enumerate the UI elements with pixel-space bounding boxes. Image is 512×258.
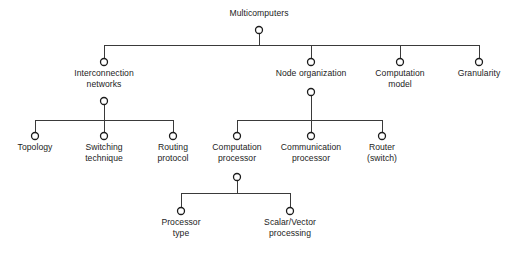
node-label-line: type — [161, 228, 200, 239]
node-label-node-organization: Node organization — [276, 68, 347, 79]
node-label-line: Topology — [18, 142, 53, 153]
node-label-communication-processor: Communicationprocessor — [281, 142, 341, 164]
node-label-multicomputers: Multicomputers — [230, 8, 289, 19]
node-circle-topology[interactable] — [32, 133, 39, 140]
node-label-line: Computation — [375, 68, 424, 79]
node-label-topology: Topology — [18, 142, 53, 153]
node-circle-switching-technique[interactable] — [101, 133, 108, 140]
node-label-granularity: Granularity — [458, 68, 501, 79]
node-label-line: Granularity — [458, 68, 501, 79]
node-label-line: networks — [74, 79, 134, 90]
node-label-line: model — [375, 79, 424, 90]
node-circle-scalar-vector-processing[interactable] — [287, 208, 294, 215]
tree-connector-layer — [0, 0, 512, 258]
node-circle-computation-processor-hub[interactable] — [234, 174, 241, 181]
node-label-scalar-vector-processing: Scalar/Vectorprocessing — [264, 217, 316, 239]
node-label-line: Router — [367, 142, 397, 153]
node-label-line: technique — [85, 153, 123, 164]
node-label-computation-model: Computationmodel — [375, 68, 424, 90]
node-label-router-switch: Router(switch) — [367, 142, 397, 164]
node-circle-processor-type[interactable] — [178, 208, 185, 215]
node-circle-node-organization-hub[interactable] — [308, 89, 315, 96]
node-circle-computation-model[interactable] — [397, 59, 404, 66]
node-label-interconnection-networks: Interconnectionnetworks — [74, 68, 134, 90]
node-label-line: Communication — [281, 142, 341, 153]
node-label-line: (switch) — [367, 153, 397, 164]
node-circle-granularity[interactable] — [476, 59, 483, 66]
node-label-line: Switching — [85, 142, 123, 153]
node-label-line: Processor — [161, 217, 200, 228]
node-circle-node-organization[interactable] — [308, 59, 315, 66]
node-label-line: processing — [264, 228, 316, 239]
node-label-line: processor — [281, 153, 341, 164]
multicomputers-taxonomy-diagram: MulticomputersInterconnectionnetworksNod… — [0, 0, 512, 258]
node-circle-computation-processor[interactable] — [234, 133, 241, 140]
node-circle-interconnection-networks-hub[interactable] — [101, 98, 108, 105]
node-label-processor-type: Processortype — [161, 217, 200, 239]
node-label-routing-protocol: Routingprotocol — [158, 142, 189, 164]
node-label-computation-processor: Computationprocessor — [212, 142, 261, 164]
node-label-line: protocol — [158, 153, 189, 164]
node-circle-communication-processor[interactable] — [308, 133, 315, 140]
node-label-line: processor — [212, 153, 261, 164]
node-label-line: Node organization — [276, 68, 347, 79]
node-label-line: Interconnection — [74, 68, 134, 79]
node-label-switching-technique: Switchingtechnique — [85, 142, 123, 164]
node-label-line: Routing — [158, 142, 189, 153]
node-circle-router-switch[interactable] — [379, 133, 386, 140]
node-circle-multicomputers[interactable] — [256, 27, 263, 34]
node-circle-routing-protocol[interactable] — [170, 133, 177, 140]
node-label-line: Scalar/Vector — [264, 217, 316, 228]
node-label-line: Computation — [212, 142, 261, 153]
node-label-line: Multicomputers — [230, 8, 289, 19]
node-circle-interconnection-networks[interactable] — [101, 59, 108, 66]
